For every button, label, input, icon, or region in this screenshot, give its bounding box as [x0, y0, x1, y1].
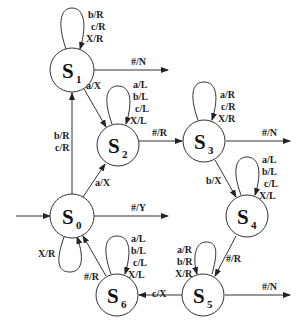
state-label: S [62, 59, 74, 83]
label-s4-loop-0: a/L [262, 154, 277, 165]
state-subscript: 0 [76, 219, 82, 231]
label-s6-loop-2: c/L [133, 257, 147, 268]
state-subscript: 2 [122, 148, 128, 160]
state-subscript: 6 [121, 298, 127, 310]
label-s4-loop-2: c/L [264, 178, 278, 189]
label-s6-loop-1: b/L [131, 245, 146, 256]
label-s5-loop-0: a/R [177, 244, 193, 255]
label-s0-to-s2: a/X [95, 177, 111, 188]
state-s5: S 5 [182, 274, 224, 316]
label-s1-exit: #/N [131, 56, 147, 67]
state-subscript: 3 [208, 144, 214, 156]
label-s5-to-s6: c/X [152, 288, 167, 299]
state-subscript: 4 [251, 219, 257, 231]
state-label: S [237, 205, 249, 229]
label-s0-to-s1-1: c/R [55, 142, 70, 153]
edge-s2-loop [107, 86, 130, 124]
label-s1-loop-0: b/R [88, 9, 104, 20]
edge-s1-to-s2 [84, 89, 106, 127]
label-s0-loop: X/R [38, 248, 56, 259]
label-s6-to-s0: #/R [84, 271, 100, 282]
edge-s4-loop [236, 157, 259, 195]
label-s1-loop-2: X/R [86, 33, 104, 44]
label-s2-loop-0: a/L [133, 79, 148, 90]
state-s2: S 2 [97, 124, 139, 166]
state-label: S [107, 284, 119, 308]
state-label: S [62, 205, 74, 229]
label-s3-loop-2: X/R [218, 113, 236, 124]
state-s6: S 6 [96, 274, 138, 316]
label-s5-loop-1: b/R [177, 256, 193, 267]
edge-s6-to-s0 [83, 236, 106, 276]
label-s3-loop-1: c/R [221, 101, 236, 112]
state-s3: S 3 [183, 120, 225, 162]
label-s2-loop-3: X/L [130, 115, 147, 126]
label-s0-to-s1-0: b/R [54, 130, 70, 141]
label-s3-to-s4: b/X [206, 175, 222, 186]
edge-s0-loop [59, 237, 82, 272]
label-s4-loop-3: X/L [259, 190, 276, 201]
state-s0: S 0 [50, 194, 94, 238]
state-label: S [193, 284, 205, 308]
label-s2-loop-1: b/L [133, 91, 148, 102]
label-s4-loop-1: b/L [262, 166, 277, 177]
label-s2-to-s3: #/R [152, 127, 168, 138]
label-s1-to-s2: a/X [86, 80, 102, 91]
label-s0-exit: #/Y [131, 202, 147, 213]
edge-s6-loop [106, 236, 129, 274]
label-s5-exit: #/N [262, 281, 278, 292]
label-s1-loop-1: c/R [91, 21, 106, 32]
label-s6-loop-3: X/L [128, 269, 145, 280]
edge-s3-loop [193, 82, 216, 120]
label-s4-to-s5: #/R [226, 253, 242, 264]
state-label: S [108, 134, 120, 158]
label-s2-loop-2: c/L [135, 103, 149, 114]
state-label: S [194, 130, 206, 154]
label-s5-loop-2: X/R [175, 268, 193, 279]
label-s6-loop-0: a/L [131, 233, 146, 244]
label-s3-loop-0: a/R [220, 89, 236, 100]
edge-s5-loop [195, 242, 216, 274]
state-diagram: S 0 S 1 S 2 S 3 S 4 S 5 S 6 b/R c/R X/R … [0, 0, 305, 331]
state-subscript: 5 [207, 298, 213, 310]
state-subscript: 1 [76, 73, 82, 85]
label-s3-exit: #/N [262, 127, 278, 138]
state-s4: S 4 [226, 195, 268, 237]
edge-s1-loop [61, 8, 84, 49]
